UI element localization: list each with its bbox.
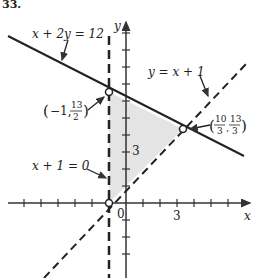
svg-text:3: 3 [232,126,238,136]
svg-text:(: ( [43,102,49,120]
svg-text:(: ( [209,117,215,135]
problem-number: 33. [2,0,21,11]
x-tick-label-3: 3 [173,209,181,223]
pointer-arrow-line1 [62,40,68,60]
label-line1: x + 2y = 12 [32,27,104,41]
point-10-3-13-3 [180,126,187,133]
svg-text:,: , [226,122,229,133]
svg-text:−1,: −1, [50,104,72,118]
svg-text:13: 13 [230,114,242,124]
pointer-arrow-p1 [88,97,104,110]
label-line3: x + 1 = 0 [32,159,90,173]
svg-text:2: 2 [73,112,79,122]
label-point1: ( −1, 13 2 ) [43,100,89,122]
shaded-region [109,92,183,203]
label-point2: ( 10 3 , 13 3 ) [209,114,247,136]
pointer-arrow-line2 [200,76,208,96]
pointer-arrow-p2 [190,125,210,129]
x-axis-label: x [244,209,251,223]
point-neg1-0 [106,200,113,207]
svg-text:): ) [83,102,89,120]
point-neg1-13-2 [106,89,113,96]
graph: 33. x + 2y = 12 y = x + 1 x + 1 = 0 y x … [0,0,258,278]
y-axis-label: y [113,19,121,33]
y-tick-label-3: 3 [132,144,140,158]
svg-text:): ) [241,117,247,135]
label-line2: y = x + 1 [147,65,205,79]
svg-text:10: 10 [215,114,227,124]
origin-label: 0 [117,207,125,221]
pointer-arrow-line3 [87,169,106,178]
svg-text:3: 3 [217,126,223,136]
svg-text:13: 13 [71,100,83,110]
